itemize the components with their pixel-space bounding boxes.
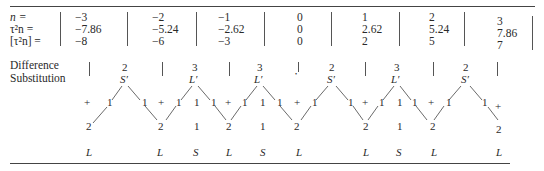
peak-symbol: S′ bbox=[327, 74, 335, 85]
two: 2 bbox=[86, 121, 92, 132]
one: 1 bbox=[277, 97, 283, 108]
letter: S bbox=[396, 147, 402, 158]
plus-sign: + bbox=[428, 97, 434, 108]
letter: L bbox=[431, 147, 437, 158]
one: 1 bbox=[107, 97, 113, 108]
peak-symbol: L′ bbox=[254, 74, 263, 85]
one: 1 bbox=[176, 97, 182, 108]
peak-symbol: S′ bbox=[120, 74, 128, 85]
plus-sign: + bbox=[495, 101, 501, 112]
zigzag-diagram bbox=[0, 0, 544, 171]
one: 1 bbox=[446, 97, 452, 108]
plus-sign: + bbox=[84, 97, 90, 108]
two: 2 bbox=[430, 121, 436, 132]
one: 1 bbox=[312, 97, 318, 108]
two: 2 bbox=[226, 121, 232, 132]
one: 1 bbox=[260, 97, 266, 108]
one: 1 bbox=[242, 97, 248, 108]
peak-number: 3 bbox=[394, 62, 400, 73]
one: 1 bbox=[194, 97, 200, 108]
plus-sign: + bbox=[362, 97, 368, 108]
two: 2 bbox=[496, 124, 502, 135]
letter: S bbox=[260, 147, 266, 158]
letter: L bbox=[226, 147, 232, 158]
peak-symbol: S′ bbox=[461, 74, 469, 85]
two: 2 bbox=[363, 121, 369, 132]
one: 1 bbox=[194, 121, 200, 132]
peak-number: 2 bbox=[329, 62, 335, 73]
one: 1 bbox=[260, 121, 266, 132]
letter: L bbox=[363, 147, 369, 158]
peak-number: 2 bbox=[122, 62, 128, 73]
one: 1 bbox=[482, 97, 488, 108]
one: 1 bbox=[412, 97, 418, 108]
two: 2 bbox=[158, 121, 164, 132]
peak-symbol: L′ bbox=[189, 74, 198, 85]
letter: L bbox=[496, 147, 502, 158]
letter: L bbox=[157, 147, 163, 158]
one: 1 bbox=[397, 97, 403, 108]
peak-symbol: L′ bbox=[391, 74, 400, 85]
one: 1 bbox=[142, 97, 148, 108]
peak-number: 3 bbox=[257, 62, 263, 73]
one: 1 bbox=[397, 121, 403, 132]
plus-sign: + bbox=[294, 97, 300, 108]
letter: L bbox=[296, 147, 302, 158]
two: 2 bbox=[294, 121, 300, 132]
plus-sign: + bbox=[158, 97, 164, 108]
peak-number: 3 bbox=[192, 62, 198, 73]
plus-sign: + bbox=[225, 97, 231, 108]
peak-number: 2 bbox=[463, 62, 469, 73]
one: 1 bbox=[348, 97, 354, 108]
one: 1 bbox=[211, 97, 217, 108]
letter: L bbox=[86, 147, 92, 158]
one: 1 bbox=[379, 97, 385, 108]
letter: S bbox=[193, 147, 199, 158]
